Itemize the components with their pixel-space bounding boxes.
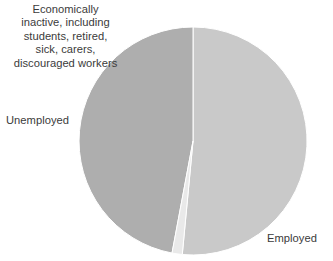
pie-label-employed: Employed <box>267 232 317 245</box>
pie-slice-employed <box>182 27 307 255</box>
pie-chart: Economically inactive, including student… <box>0 0 333 261</box>
pie-label-economically-inactive: Economically inactive, including student… <box>0 3 131 70</box>
pie-label-unemployed: Unemployed <box>6 114 80 127</box>
